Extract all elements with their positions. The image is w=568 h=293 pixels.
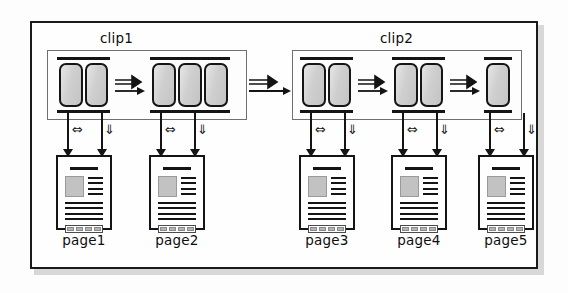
group-cells <box>59 63 108 107</box>
connector-stem-page3-right <box>344 113 346 151</box>
clip2-group4[interactable] <box>392 57 445 113</box>
connector-stem-page3-left <box>310 113 312 151</box>
page-image-block <box>487 176 506 197</box>
connector-stem-page4-right <box>436 113 438 151</box>
page-text-lines <box>400 202 438 221</box>
page-title-line <box>405 167 433 170</box>
page1[interactable]: page1 <box>56 155 112 230</box>
bidirectional-symbol-page5: ⇔ <box>494 123 505 136</box>
buffer-cell[interactable] <box>420 63 444 107</box>
group-rule-top <box>57 57 110 60</box>
clip2-group3[interactable] <box>300 57 353 113</box>
page-side-lines <box>331 176 346 197</box>
connector-stem-page4-left <box>402 113 404 151</box>
buffer-cell[interactable] <box>152 63 176 107</box>
downward-symbol-page2: ⇓ <box>197 123 208 136</box>
clip2-group5[interactable] <box>484 57 512 113</box>
page-image-block <box>158 176 177 197</box>
page-title-line <box>70 167 98 170</box>
bidirectional-symbol-page1: ⇔ <box>72 123 83 136</box>
clip1-group2[interactable] <box>150 57 230 113</box>
buffer-cell[interactable] <box>178 63 202 107</box>
downward-symbol-page1: ⇓ <box>104 123 115 136</box>
page5[interactable]: page5 <box>478 155 534 230</box>
connector-stem-page1-right <box>101 113 103 151</box>
connector-stem-page5-right <box>523 113 525 151</box>
buffer-cell[interactable] <box>328 63 352 107</box>
buffer-cell[interactable] <box>302 63 326 107</box>
group-cells <box>302 63 351 107</box>
group-rule-bottom <box>150 110 230 113</box>
page-body <box>487 176 525 197</box>
page-image-block <box>308 176 327 197</box>
buffer-cell[interactable] <box>59 63 83 107</box>
page-title-line <box>492 167 520 170</box>
group-cells <box>152 63 228 107</box>
page-title-line <box>163 167 191 170</box>
arrow-group1-to-group2 <box>113 72 147 98</box>
arrow-group3-to-group4 <box>356 72 390 98</box>
page-document <box>149 155 205 230</box>
page-document <box>299 155 355 230</box>
page-body <box>308 176 346 197</box>
page-text-lines <box>487 202 525 221</box>
page-title-line <box>313 167 341 170</box>
buffer-cell[interactable] <box>394 63 418 107</box>
group-rule-top <box>300 57 353 60</box>
figure-canvas: clip1 clip2 <box>0 0 568 293</box>
page-body <box>400 176 438 197</box>
group-rule-top <box>484 57 512 60</box>
page-side-lines <box>510 176 525 197</box>
page-image-block <box>65 176 84 197</box>
page-text-lines <box>158 202 196 221</box>
page-side-lines <box>88 176 103 197</box>
page-side-lines <box>181 176 196 197</box>
arrow-group4-to-group5 <box>448 72 482 98</box>
buffer-cell[interactable] <box>85 63 109 107</box>
page2-label: page2 <box>155 232 198 248</box>
page-document <box>56 155 112 230</box>
downward-symbol-page4: ⇓ <box>439 123 450 136</box>
page5-label: page5 <box>484 232 527 248</box>
connector-stem-page2-left <box>160 113 162 151</box>
arrow-clip1-to-clip2 <box>247 72 293 98</box>
page-text-lines <box>308 202 346 221</box>
page-text-lines <box>65 202 103 221</box>
clip1-label: clip1 <box>100 30 133 46</box>
page-body <box>65 176 103 197</box>
group-rule-top <box>392 57 445 60</box>
connector-stem-page5-left <box>489 113 491 151</box>
page-image-block <box>400 176 419 197</box>
connector-stem-page2-right <box>194 113 196 151</box>
page3-label: page3 <box>305 232 348 248</box>
page4[interactable]: page4 <box>391 155 447 230</box>
page-document <box>478 155 534 230</box>
clip1-group1[interactable] <box>57 57 110 113</box>
downward-symbol-page3: ⇓ <box>347 123 358 136</box>
page-document <box>391 155 447 230</box>
buffer-cell[interactable] <box>486 63 510 107</box>
page-side-lines <box>423 176 438 197</box>
page4-label: page4 <box>397 232 440 248</box>
bidirectional-symbol-page3: ⇔ <box>315 123 326 136</box>
page-body <box>158 176 196 197</box>
group-cells <box>486 63 510 107</box>
page2[interactable]: page2 <box>149 155 205 230</box>
page3[interactable]: page3 <box>299 155 355 230</box>
page1-label: page1 <box>62 232 105 248</box>
group-rule-top <box>150 57 230 60</box>
bidirectional-symbol-page4: ⇔ <box>407 123 418 136</box>
buffer-cell[interactable] <box>204 63 228 107</box>
clip2-label: clip2 <box>380 30 413 46</box>
group-cells <box>394 63 443 107</box>
bidirectional-symbol-page2: ⇔ <box>165 123 176 136</box>
downward-symbol-page5: ⇓ <box>526 123 537 136</box>
connector-stem-page1-left <box>67 113 69 151</box>
